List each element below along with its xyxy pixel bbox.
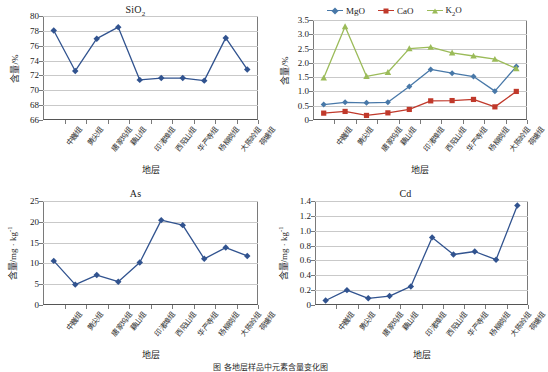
series-line-as bbox=[54, 220, 248, 284]
legend-label-MgO: MgO bbox=[346, 6, 365, 16]
data-point-as bbox=[158, 217, 164, 223]
series-line-cd bbox=[326, 205, 518, 300]
x-axis-tick-label: 杨柳岗组 bbox=[218, 126, 242, 153]
data-point-cd bbox=[322, 297, 328, 303]
data-point-MgO bbox=[342, 99, 348, 105]
y-axis-tick-label: 3.0 bbox=[298, 30, 313, 39]
data-point-as bbox=[94, 272, 100, 278]
x-axis-tick-label: 华严寺组 bbox=[466, 126, 490, 153]
data-point-cd bbox=[493, 256, 499, 262]
x-axis-tick bbox=[443, 305, 444, 309]
x-axis-title-sio2: 地层 bbox=[43, 163, 258, 176]
x-axis-title-as: 地层 bbox=[43, 348, 258, 361]
y-axis-tick-label: 80 bbox=[30, 12, 43, 21]
x-axis-tick-label: 印渚埠组 bbox=[423, 126, 447, 153]
y-axis-tick-label: 66 bbox=[30, 116, 43, 125]
x-axis-tick bbox=[237, 305, 238, 309]
y-axis-title-cd: 含量/mg · kg-1 bbox=[277, 226, 290, 280]
data-point-CaO bbox=[321, 111, 326, 116]
data-point-sio2 bbox=[137, 77, 143, 83]
x-axis-tick-label: 印渚埠组 bbox=[153, 311, 177, 338]
legend-marker-K2O bbox=[432, 9, 438, 14]
x-axis-tick bbox=[484, 120, 485, 124]
x-axis-tick-label: 中巍组 bbox=[337, 311, 356, 332]
y-axis-tick-label: 0.2 bbox=[300, 286, 315, 295]
x-axis-tick-label: 黄尖组 bbox=[356, 126, 375, 147]
chart-panel-oxides: 00.51.01.52.02.53.03.5中巍组黄尖组唐家坞组藕山组印渚埠组西… bbox=[270, 0, 541, 185]
y-axis-tick-label: 0 bbox=[307, 301, 316, 310]
plot-area-cd: 00.20.40.60.81.01.21.4中巍组黄尖组唐家坞组藕山组印渚埠组西… bbox=[315, 201, 528, 305]
x-axis-tick bbox=[358, 305, 359, 309]
y-axis-tick-label: 72 bbox=[30, 71, 43, 80]
legend-swatch-CaO bbox=[378, 10, 394, 11]
y-axis-tick-label: 0.6 bbox=[300, 256, 315, 265]
y-axis-title-oxides: 含量/% bbox=[278, 56, 291, 84]
x-axis-tick bbox=[399, 120, 400, 124]
data-point-MgO bbox=[321, 102, 327, 108]
x-axis-tick-label: 杨柳岗组 bbox=[218, 311, 242, 338]
legend-item-CaO[interactable]: CaO bbox=[378, 6, 414, 16]
plot-area-as: 0510152025中巍组黄尖组唐家坞组藕山组印渚埠组西阳山组华严寺组杨柳岗组大… bbox=[43, 201, 258, 305]
x-axis-tick bbox=[65, 120, 66, 124]
x-axis-tick-label: 黄尖组 bbox=[86, 311, 105, 332]
legend-item-K2O[interactable]: K2O bbox=[427, 5, 462, 17]
chart-panel-sio2: SiO26668707274767880中巍组黄尖组唐家坞组藕山组印渚埠组西阳山… bbox=[0, 0, 271, 185]
y-axis-title-sio2: 含量/% bbox=[8, 54, 21, 82]
x-axis-tick-label: 黄尖组 bbox=[358, 311, 377, 332]
y-axis-tick-label: 5 bbox=[35, 280, 44, 289]
y-axis-tick-label: 74 bbox=[30, 56, 43, 65]
x-axis-tick bbox=[506, 120, 507, 124]
x-axis-title-oxides: 地层 bbox=[313, 163, 527, 176]
data-point-cd bbox=[514, 202, 520, 208]
x-axis-tick bbox=[258, 305, 259, 309]
chart-legend: MgOCaOK2O bbox=[327, 5, 462, 17]
y-axis-tick-label: 15 bbox=[30, 238, 43, 247]
x-axis-tick bbox=[172, 305, 173, 309]
legend-label-CaO: CaO bbox=[397, 6, 414, 16]
y-axis-tick-label: 76 bbox=[30, 41, 43, 50]
data-point-sio2 bbox=[158, 75, 164, 81]
y-axis-tick-label: 2.0 bbox=[298, 58, 313, 67]
x-axis-tick bbox=[464, 305, 465, 309]
series-line-CaO bbox=[324, 91, 517, 115]
data-point-CaO bbox=[385, 110, 390, 115]
x-axis-tick bbox=[420, 120, 421, 124]
y-axis-tick-label: 1.4 bbox=[300, 197, 315, 206]
y-axis-tick-label: 20 bbox=[30, 217, 43, 226]
y-axis-tick-label: 0.5 bbox=[298, 101, 313, 110]
series-layer-sio2 bbox=[43, 16, 258, 120]
x-axis-tick bbox=[65, 305, 66, 309]
y-axis-tick-label: 1.5 bbox=[298, 73, 313, 82]
data-point-cd bbox=[344, 287, 350, 293]
y-axis-tick-label: 0 bbox=[305, 116, 314, 125]
data-point-CaO bbox=[364, 113, 369, 118]
data-point-CaO bbox=[514, 89, 519, 94]
x-axis-tick bbox=[379, 305, 380, 309]
x-axis-tick bbox=[258, 120, 259, 124]
figure-caption: 图 各地层样品中元素含量变化图 bbox=[0, 361, 541, 372]
data-point-MgO bbox=[364, 100, 370, 106]
series-line-sio2 bbox=[54, 27, 248, 80]
data-point-sio2 bbox=[115, 24, 121, 30]
x-axis-tick bbox=[129, 305, 130, 309]
x-axis-tick bbox=[194, 120, 195, 124]
y-axis-tick-label: 1.0 bbox=[300, 226, 315, 235]
x-axis-tick-label: 中巍组 bbox=[65, 126, 84, 147]
x-axis-tick bbox=[194, 305, 195, 309]
x-axis-tick bbox=[237, 120, 238, 124]
series-line-MgO bbox=[324, 67, 517, 105]
legend-item-MgO[interactable]: MgO bbox=[327, 6, 365, 16]
legend-swatch-MgO bbox=[327, 10, 343, 11]
x-axis-tick-label: 黄尖组 bbox=[86, 126, 105, 147]
y-axis-tick-label: 0 bbox=[35, 301, 44, 310]
x-axis-tick bbox=[507, 305, 508, 309]
x-axis-tick bbox=[86, 120, 87, 124]
y-axis-tick-label: 3.5 bbox=[298, 16, 313, 25]
chart-panel-as: As0510152025中巍组黄尖组唐家坞组藕山组印渚埠组西阳山组华严寺组杨柳岗… bbox=[0, 185, 271, 370]
x-axis-tick bbox=[463, 120, 464, 124]
x-axis-tick bbox=[422, 305, 423, 309]
series-layer-as bbox=[43, 201, 258, 305]
x-axis-tick bbox=[527, 120, 528, 124]
y-axis-tick-label: 1.2 bbox=[300, 211, 315, 220]
